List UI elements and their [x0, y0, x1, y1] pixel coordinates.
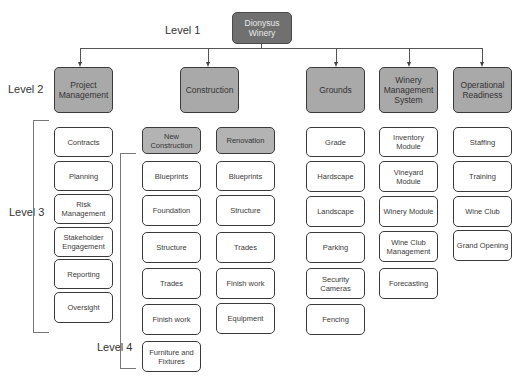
node-oversight: Oversight	[54, 292, 113, 323]
level-4-bracket	[120, 153, 136, 369]
node-security-cameras: Security Cameras	[306, 268, 365, 299]
node-nc-furniture-and-fixtures: Furniture and Fixtures	[142, 341, 201, 372]
root-node-dionysus-winery: Dionysus Winery	[232, 12, 292, 44]
node-staffing: Staffing	[453, 127, 512, 157]
connector-wms	[409, 48, 410, 62]
node-landscape: Landscape	[306, 196, 365, 227]
node-winery-management-system: Winery Management System	[379, 67, 438, 113]
node-operational-readiness: Operational Readiness	[453, 67, 512, 113]
node-construction: Construction	[180, 67, 239, 113]
node-risk-management: Risk Management	[54, 194, 113, 224]
node-ren-structure: Structure	[216, 195, 275, 226]
node-nc-trades: Trades	[142, 268, 201, 299]
node-contracts: Contracts	[54, 127, 113, 157]
node-grade: Grade	[306, 127, 365, 157]
node-ren-blueprints: Blueprints	[216, 161, 275, 191]
node-ren-finish-work: Finish work	[216, 268, 275, 299]
node-project-management: Project Management	[54, 67, 113, 113]
node-nc-structure: Structure	[142, 232, 201, 263]
node-parking: Parking	[306, 232, 365, 263]
node-training: Training	[453, 161, 512, 192]
node-nc-blueprints: Blueprints	[142, 161, 201, 191]
level-2-bus-line	[80, 48, 483, 49]
node-ren-trades: Trades	[216, 232, 275, 263]
node-wine-club-management: Wine Club Management	[379, 231, 438, 262]
node-stakeholder-engagement: Stakeholder Engagement	[54, 227, 113, 257]
node-new-construction: New Construction	[142, 127, 201, 154]
node-nc-foundation: Foundation	[142, 195, 201, 226]
level-1-label: Level 1	[165, 24, 200, 36]
level-3-bracket	[33, 120, 49, 333]
connector-or	[482, 48, 483, 62]
node-grounds: Grounds	[306, 67, 365, 113]
node-vineyard-module: Vineyard Module	[379, 161, 438, 192]
node-hardscape: Hardscape	[306, 161, 365, 192]
connector-grounds	[336, 48, 337, 62]
node-reporting: Reporting	[54, 259, 113, 289]
node-inventory-module: Inventory Module	[379, 127, 438, 157]
node-wine-club: Wine Club	[453, 196, 512, 227]
node-planning: Planning	[54, 161, 113, 191]
node-ren-equipment: Equipment	[216, 303, 275, 334]
level-2-label: Level 2	[8, 83, 43, 95]
node-grand-opening: Grand Opening	[453, 230, 512, 261]
connector-pm	[80, 48, 81, 62]
node-renovation: Renovation	[216, 127, 275, 154]
node-forecasting: Forecasting	[379, 268, 438, 299]
connector-construction	[208, 48, 209, 62]
node-fencing: Fencing	[306, 304, 365, 335]
node-winery-module: Winery Module	[379, 196, 438, 227]
node-nc-finish-work: Finish work	[142, 304, 201, 335]
